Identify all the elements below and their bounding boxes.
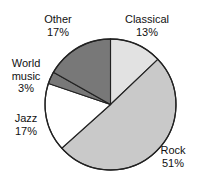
pie-label-other: Other 17% xyxy=(32,13,84,38)
pie-label-world-music-name-line2: music xyxy=(2,70,50,83)
pie-label-rock-value: 51% xyxy=(150,157,196,170)
pie-label-world-music: World music 3% xyxy=(2,57,50,95)
pie-label-jazz: Jazz 17% xyxy=(5,112,47,137)
pie-label-rock: Rock 51% xyxy=(150,144,196,169)
pie-label-other-name: Other xyxy=(44,13,72,25)
pie-label-classical: Classical 13% xyxy=(116,13,178,38)
pie-chart: Other 17% Classical 13% World music 3% J… xyxy=(0,0,203,187)
pie-label-world-music-value: 3% xyxy=(2,82,50,95)
pie-label-jazz-name: Jazz xyxy=(15,112,38,124)
pie-label-world-music-name-line1: World xyxy=(2,57,50,70)
pie-label-jazz-value: 17% xyxy=(5,125,47,138)
pie-label-classical-name: Classical xyxy=(125,13,169,25)
pie-label-other-value: 17% xyxy=(32,26,84,39)
pie-label-rock-name: Rock xyxy=(160,144,185,156)
pie-label-classical-value: 13% xyxy=(116,26,178,39)
